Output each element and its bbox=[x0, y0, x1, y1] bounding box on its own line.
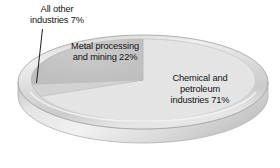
pie-label-chemical-petroleum: Chemical and petroleum industries 71% bbox=[148, 73, 252, 107]
pie-chart-figure: All other industries 7% Metal processing… bbox=[0, 0, 280, 168]
pie-label-metal-processing: Metal processing and mining 22% bbox=[52, 41, 158, 63]
pie-label-all-other-industries: All other industries 7% bbox=[8, 4, 106, 26]
